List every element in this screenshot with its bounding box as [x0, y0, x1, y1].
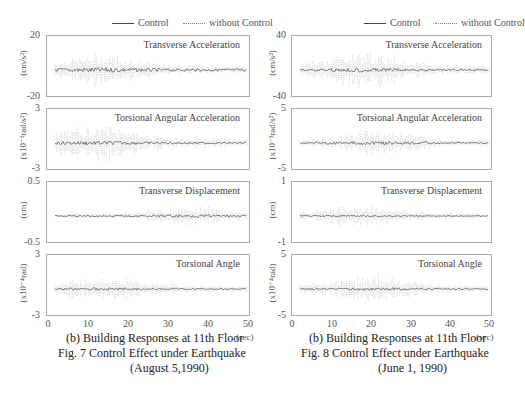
legend-without-control-swatch	[435, 23, 457, 24]
x-tick: 30	[158, 318, 178, 329]
x-tick: 0	[38, 318, 58, 329]
panel-torsional-angular-acceleration: Torsional Angular Acceleration	[291, 108, 492, 170]
legend-without-control-swatch	[183, 23, 205, 24]
panel-title: Transverse Acceleration	[142, 39, 241, 50]
x-tick: 30	[401, 318, 421, 329]
legend-without-control-label: without Control	[461, 17, 525, 28]
x-tick: 20	[118, 318, 138, 329]
figure-date: (August 5,1990)	[130, 361, 209, 376]
x-tick: 50	[479, 318, 499, 329]
panel-transverse-acceleration: Transverse Acceleration	[46, 35, 250, 97]
legend-control-swatch	[364, 23, 386, 24]
x-tick: 40	[198, 318, 218, 329]
panel-title: Torsional Angular Acceleration	[114, 112, 241, 123]
legend: Control without Control	[112, 17, 273, 28]
x-tick: 10	[322, 318, 342, 329]
x-tick: 0	[282, 318, 302, 329]
y-axis-label: (cm/s²)	[267, 23, 277, 103]
figure-caption: Fig. 7 Control Effect under Earthquake	[58, 346, 246, 361]
panel-torsional-angle: Torsional Angle	[291, 254, 492, 316]
panel-title: Transverse Displacement	[380, 185, 483, 196]
panel-title: Torsional Angle	[175, 258, 241, 269]
y-axis-label: (cm/s²)	[18, 23, 28, 103]
subcaption: (b) Building Responses at 11th Floor	[309, 331, 486, 346]
x-tick: 50	[238, 318, 258, 329]
panel-transverse-displacement: Transverse Displacement	[46, 181, 250, 243]
panel-title: Torsional Angle	[417, 258, 483, 269]
y-axis-label: (x10⁻⁴rad)	[267, 243, 277, 323]
legend-control-label: Control	[138, 17, 169, 28]
x-tick: 40	[440, 318, 460, 329]
panel-torsional-angular-acceleration: Torsional Angular Acceleration	[46, 108, 250, 170]
legend-control-label: Control	[390, 17, 421, 28]
panel-title: Torsional Angular Acceleration	[356, 112, 483, 123]
panel-transverse-acceleration: Transverse Acceleration	[291, 35, 492, 97]
x-tick: 20	[361, 318, 381, 329]
panel-title: Transverse Displacement	[138, 185, 241, 196]
panel-transverse-displacement: Transverse Displacement	[291, 181, 492, 243]
y-axis-label: (x10⁻⁴rad)	[18, 243, 28, 323]
y-axis-label: (cm)	[18, 170, 28, 250]
subcaption: (b) Building Responses at 11th Floor	[66, 331, 243, 346]
figure-caption: Fig. 8 Control Effect under Earthquake	[301, 346, 489, 361]
x-tick: 10	[78, 318, 98, 329]
y-axis-label: (cm)	[267, 170, 277, 250]
figure-date: (June 1, 1990)	[378, 361, 447, 376]
y-axis-label: (x10⁻³rad/s²)	[267, 96, 277, 176]
panel-torsional-angle: Torsional Angle	[46, 254, 250, 316]
legend: Control without Control	[364, 17, 525, 28]
y-axis-label: (x10⁻²rad/s²)	[18, 96, 28, 176]
legend-without-control-label: without Control	[209, 17, 273, 28]
legend-control-swatch	[112, 23, 134, 24]
panel-title: Transverse Acceleration	[384, 39, 483, 50]
